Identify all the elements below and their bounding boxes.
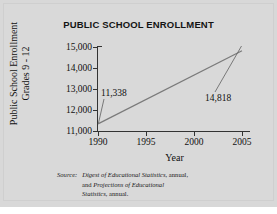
leader-line-end-point bbox=[215, 46, 242, 92]
data-label-14818: 14,818 bbox=[205, 93, 231, 103]
data-label-11338: 11,338 bbox=[101, 88, 127, 98]
source-prefix: Source: bbox=[57, 171, 77, 178]
leader-line-start-point bbox=[99, 99, 105, 123]
source-title-1: Digest of Educational Statistics bbox=[82, 171, 165, 178]
source-line-2: and Projections of Educational bbox=[57, 180, 267, 190]
source-title-2: Projections of Educational bbox=[93, 181, 164, 188]
source-line-3: Statistics, annual. bbox=[57, 189, 267, 199]
source-lead-2: and bbox=[82, 181, 93, 188]
source-note: Source: Digest of Educational Statistics… bbox=[57, 170, 267, 199]
source-line-1: Source: Digest of Educational Statistics… bbox=[57, 170, 267, 180]
source-rest-1: , annual, bbox=[166, 171, 189, 178]
figure-background: PUBLIC SCHOOL ENROLLMENT Public School E… bbox=[0, 0, 277, 207]
source-rest-3: , annual. bbox=[106, 190, 129, 197]
source-title-3: Statistics bbox=[82, 190, 106, 197]
